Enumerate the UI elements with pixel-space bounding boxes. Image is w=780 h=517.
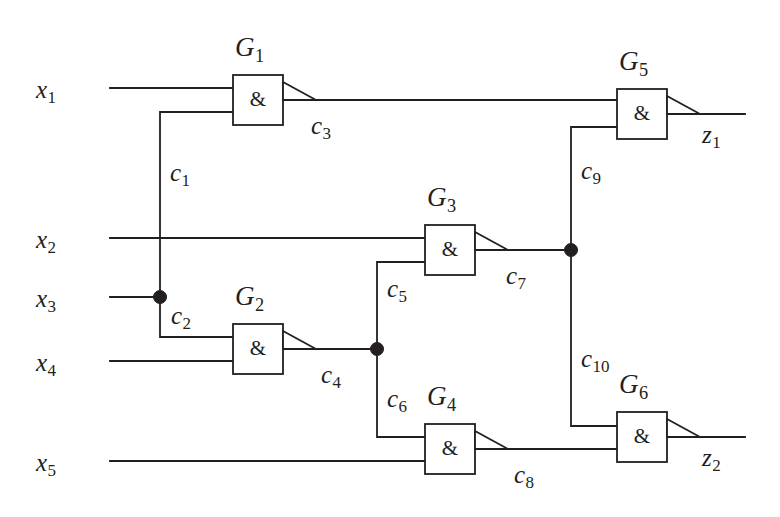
input-label-x2: x2 [36,227,56,256]
circuit-diagram-canvas: & & & & [0,0,780,517]
input-label-x4: x4 [36,350,56,379]
wire-c9 [571,127,617,250]
net-label-c3: c3 [311,113,331,142]
net-label-c9: c9 [581,158,601,187]
gate-label-G3: G3 [427,184,456,215]
gate-G5-symbol: & [634,101,650,125]
gate-G4[interactable]: & [425,424,508,474]
input-label-x5: x5 [36,450,56,479]
gate-G1-symbol: & [250,87,266,111]
gate-G3-inversion-triangle [475,232,508,250]
net-label-c6: c6 [387,386,407,415]
net-label-c8: c8 [514,462,534,491]
gate-G5-inversion-triangle [667,96,700,114]
output-label-z2: z2 [702,445,721,474]
gate-G5[interactable]: & [617,89,700,139]
gate-G1-inversion-triangle [283,82,316,100]
input-label-x1: x1 [36,77,56,106]
net-label-c7: c7 [506,263,526,292]
junction-fanout-c4 [371,343,384,356]
gate-G2-symbol: & [250,336,266,360]
wire-c1 [160,112,233,297]
net-label-c5: c5 [387,276,407,305]
gate-G4-symbol: & [442,436,458,460]
gate-G6[interactable]: & [617,412,700,462]
gate-G2-inversion-triangle [283,331,316,349]
output-label-z1: z1 [702,122,721,151]
junction-layer [154,244,578,356]
gate-label-G6: G6 [619,371,648,402]
gate-G6-symbol: & [634,424,650,448]
input-label-x3: x3 [36,286,56,315]
net-label-c4: c4 [321,362,341,391]
gate-G4-inversion-triangle [475,431,508,449]
gate-G3[interactable]: & [425,225,508,275]
net-label-c10: c10 [581,346,610,375]
net-label-c1: c1 [170,160,190,189]
wire-c10 [571,250,617,426]
circuit-schematic-svg: & & & & [0,0,780,517]
gate-label-G2: G2 [235,283,264,314]
gate-G3-symbol: & [442,237,458,261]
gate-label-G5: G5 [619,48,648,79]
gate-G2[interactable]: & [233,324,316,374]
gate-layer: & & & & [233,75,700,474]
gate-G6-inversion-triangle [667,419,700,437]
junction-fanout-c7 [565,244,578,257]
gate-label-G1: G1 [235,34,264,65]
gate-G1[interactable]: & [233,75,316,125]
gate-label-G4: G4 [427,383,456,414]
net-label-c2: c2 [171,303,191,332]
junction-fanout-x3 [154,291,167,304]
